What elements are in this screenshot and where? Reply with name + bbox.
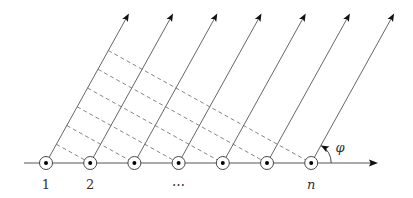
wavefront-lines [56, 51, 311, 163]
source-label: 1 [42, 177, 50, 192]
ray-line [223, 19, 303, 163]
ray-arrowhead-icon [166, 13, 173, 22]
ray-arrowhead-icon [255, 13, 262, 22]
ray-line [311, 19, 391, 163]
source-dot [265, 161, 269, 165]
source-dot [44, 161, 48, 165]
source-dot [88, 161, 92, 165]
ray-line [134, 19, 214, 163]
angle-label-phi: φ [335, 140, 345, 155]
angle-marker [321, 146, 331, 163]
source-dot [309, 161, 313, 165]
ray-line [46, 19, 126, 163]
ray-line [179, 19, 259, 163]
source-node [216, 157, 229, 170]
wavefront-line [77, 107, 178, 163]
source-labels: 12⋯n [42, 177, 316, 192]
wavefront-line [98, 69, 267, 163]
angle-arrowhead-icon [321, 146, 330, 153]
source-node [261, 157, 274, 170]
source-dot [132, 161, 136, 165]
source-label: n [307, 177, 315, 192]
source-label: 2 [86, 177, 94, 192]
source-dot [177, 161, 181, 165]
source-node [128, 157, 141, 170]
ray-arrowhead-icon [343, 13, 350, 22]
ray-arrowhead-icon [387, 13, 394, 22]
ray-line [90, 19, 170, 163]
source-node [172, 157, 185, 170]
array-diagram: 12⋯n φ [0, 0, 413, 198]
ray-arrowhead-icon [211, 13, 218, 22]
ray-arrowhead-icon [122, 13, 129, 22]
source-dot [221, 161, 225, 165]
source-label: ⋯ [172, 177, 185, 192]
source-node [305, 157, 318, 170]
source-node [84, 157, 97, 170]
source-node [40, 157, 53, 170]
ray-arrowhead-icon [299, 13, 306, 22]
